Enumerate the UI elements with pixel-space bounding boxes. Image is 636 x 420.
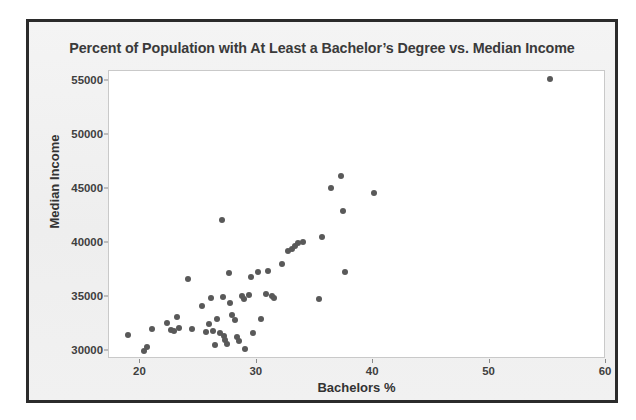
scatter-point: [206, 321, 212, 327]
x-axis-tick-label: 30: [249, 365, 262, 377]
scatter-point: [199, 303, 205, 309]
scatter-point: [232, 317, 238, 323]
scatter-point: [328, 185, 334, 191]
scatter-point: [226, 270, 232, 276]
scatter-point: [248, 274, 254, 280]
scatter-point: [319, 234, 325, 240]
x-axis-tick-mark: [139, 359, 140, 363]
scatter-point: [338, 173, 344, 179]
x-axis-tick-label: 50: [482, 365, 495, 377]
scatter-point: [279, 261, 285, 267]
chart-title: Percent of Population with At Least a Ba…: [29, 40, 615, 56]
y-axis-tick-labels: 300003500040000450005000055000: [29, 70, 103, 358]
scatter-point: [265, 268, 271, 274]
scatter-point: [300, 239, 306, 245]
scatter-point: [125, 332, 131, 338]
scatter-point: [176, 325, 182, 331]
x-axis-label: Bachelors %: [108, 380, 605, 395]
x-axis-tick-mark: [256, 359, 257, 363]
scatter-point: [236, 338, 242, 344]
x-axis-tick-label: 20: [133, 365, 146, 377]
scatter-point: [547, 76, 553, 82]
scatter-point: [250, 330, 256, 336]
scatter-point: [227, 300, 233, 306]
scatter-point: [219, 217, 225, 223]
scatter-point: [144, 344, 150, 350]
y-axis-tick-label: 35000: [71, 290, 103, 302]
scatter-plot-area: [108, 70, 605, 358]
x-axis-tick-mark: [605, 359, 606, 363]
scatter-point: [203, 329, 209, 335]
scatter-point: [246, 292, 252, 298]
scatter-point: [224, 341, 230, 347]
scatter-point: [185, 276, 191, 282]
chart-figure-frame: Percent of Population with At Least a Ba…: [26, 19, 618, 403]
scatter-point: [164, 320, 170, 326]
scatter-point: [371, 190, 377, 196]
scatter-point: [271, 295, 277, 301]
x-axis-tick-label: 60: [599, 365, 612, 377]
scatter-point: [220, 294, 226, 300]
scatter-point: [242, 346, 248, 352]
y-axis-tick-label: 40000: [71, 236, 103, 248]
scatter-point: [149, 326, 155, 332]
scatter-point: [174, 314, 180, 320]
y-axis-tick-label: 50000: [71, 128, 103, 140]
x-axis-tick-mark: [489, 359, 490, 363]
scatter-point: [316, 296, 322, 302]
scatter-point: [214, 316, 220, 322]
y-axis-tick-label: 55000: [71, 74, 103, 86]
scatter-point: [189, 326, 195, 332]
x-axis-tick-mark: [372, 359, 373, 363]
scatter-point: [340, 208, 346, 214]
scatter-point: [258, 316, 264, 322]
scatter-point: [255, 269, 261, 275]
scatter-point: [208, 295, 214, 301]
y-axis-tick-label: 30000: [71, 344, 103, 356]
x-axis-tick-label: 40: [366, 365, 379, 377]
scatter-point: [212, 342, 218, 348]
scatter-points-layer: [109, 71, 604, 357]
scatter-point: [342, 269, 348, 275]
y-axis-tick-label: 45000: [71, 182, 103, 194]
scatter-point: [210, 328, 216, 334]
